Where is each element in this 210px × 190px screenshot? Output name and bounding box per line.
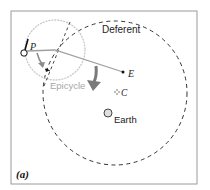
center-label: C (121, 88, 128, 98)
figure-frame (11, 11, 197, 184)
epicycle-label: Epicycle (50, 80, 85, 91)
equant-dot (122, 71, 125, 74)
deferent-label: Deferent (102, 24, 141, 35)
earth-label: Earth (114, 114, 137, 125)
planet-label: P (29, 41, 36, 52)
panel-label: (a) (16, 168, 29, 181)
planet-marker-icon (21, 50, 27, 56)
epicycle-deferent-diagram: Deferent Epicycle Earth P E C (a) (0, 0, 210, 190)
earth-marker-icon (104, 109, 112, 117)
equant-label: E (127, 68, 134, 79)
